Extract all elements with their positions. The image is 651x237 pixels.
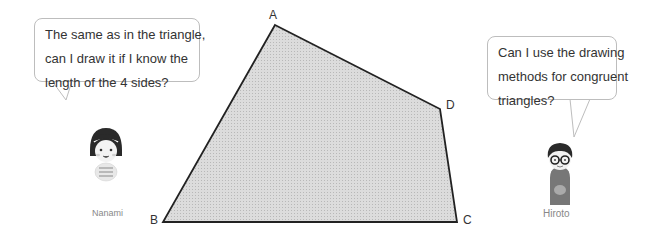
- nanami-avatar: [90, 128, 122, 181]
- quadrilateral-abcd: [163, 25, 457, 222]
- nanami-speech-bubble: The same as in the triangle, can I draw …: [34, 18, 200, 82]
- vertex-label-a: A: [269, 8, 277, 22]
- hiroto-speech-bubble: Can I use the drawing methods for congru…: [487, 36, 617, 100]
- speech-line: methods for congruent: [498, 65, 606, 89]
- vertex-label-c: C: [463, 213, 472, 227]
- hiroto-name-label: Hiroto: [543, 208, 570, 219]
- speech-line: can I draw it if I know the: [45, 47, 189, 71]
- vertex-label-b: B: [150, 213, 158, 227]
- vertex-label-d: D: [446, 98, 455, 112]
- nanami-name-label: Nanami: [92, 208, 123, 218]
- speech-line: Can I use the drawing: [498, 41, 606, 65]
- hiroto-avatar: [548, 143, 573, 205]
- diagram-stage: The same as in the triangle, can I draw …: [0, 0, 651, 237]
- speech-line: The same as in the triangle,: [45, 23, 189, 47]
- speech-line: length of the 4 sides?: [45, 71, 189, 95]
- speech-line: triangles?: [498, 89, 606, 113]
